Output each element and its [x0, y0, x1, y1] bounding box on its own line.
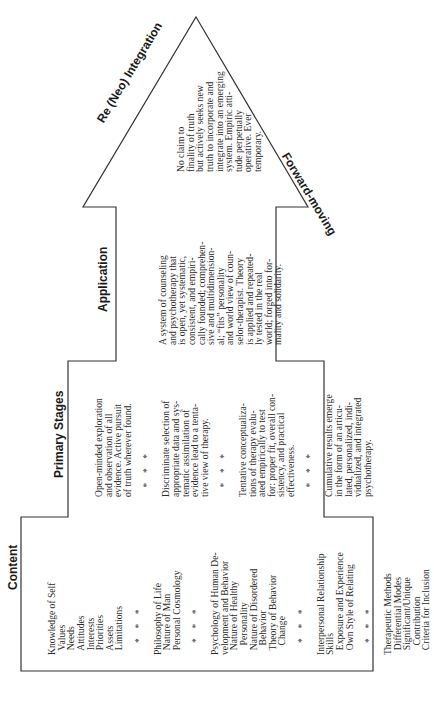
text-line: psychotherapy.: [363, 394, 373, 497]
text-line: * * *: [142, 394, 152, 497]
text-line: * * *: [134, 552, 144, 655]
text-line: Criteria for Inclusion: [421, 552, 431, 655]
text-line: * * *: [364, 552, 374, 655]
primary-stages-title: Primary Stages: [52, 391, 66, 478]
tip-text: No claim tofinality of truthbut actively…: [157, 71, 272, 172]
primary-stages-text: Open-minded explorationand observation o…: [75, 394, 382, 497]
text-line: mality and solidarity.: [273, 242, 283, 345]
application-title: Application: [96, 247, 110, 312]
content-title: Content: [6, 545, 20, 590]
text-line: * * *: [305, 394, 315, 497]
text-line: * * *: [219, 394, 229, 497]
application-text: A system of counselingand psychotherapy …: [139, 242, 293, 345]
text-line: effectiveness.: [286, 394, 296, 497]
text-line: * * *: [297, 552, 307, 655]
text-line: tive view of therapy.: [200, 394, 210, 497]
text-line: Own Style of Relating: [345, 552, 355, 655]
content-text: Knowledge of Self Values Needs Attitudes…: [28, 552, 434, 655]
text-line: Change: [277, 552, 287, 655]
text-line: Personal Cosmology: [172, 552, 182, 655]
text-line: temporary.: [253, 71, 263, 172]
text-line: Limitations: [114, 552, 124, 655]
text-line: * * *: [191, 552, 201, 655]
text-line: of truth wherever found.: [123, 394, 133, 497]
